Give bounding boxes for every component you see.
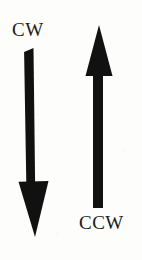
cw-arrow-shaft xyxy=(24,48,35,183)
cw-label: CW xyxy=(12,20,44,39)
ccw-arrow-shaft xyxy=(93,70,103,209)
ccw-arrow-head xyxy=(86,25,113,76)
ccw-label: CCW xyxy=(79,213,124,232)
figure-container: CW CCW xyxy=(0,0,142,260)
ccw-arrow xyxy=(86,25,113,208)
cw-arrow-head xyxy=(19,181,49,237)
cw-arrow xyxy=(19,48,49,237)
